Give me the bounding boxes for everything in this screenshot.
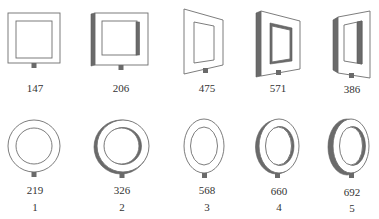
ring-5 [328, 119, 369, 178]
ring-3 [184, 119, 224, 178]
ring-value-2: 326 [114, 184, 131, 196]
column-number-1: 1 [32, 201, 38, 213]
square-value-3: 475 [199, 82, 216, 94]
square-frame-5 [333, 11, 370, 78]
ring-1 [8, 120, 60, 177]
stimulus-figure [0, 0, 379, 219]
square-value-2: 206 [113, 82, 130, 94]
square-value-4: 571 [270, 82, 287, 94]
column-number-4: 4 [276, 201, 282, 213]
column-number-2: 2 [119, 201, 125, 213]
square-value-1: 147 [27, 82, 44, 94]
square-value-5: 386 [344, 83, 361, 95]
column-number-5: 5 [349, 202, 355, 214]
ring-value-5: 692 [344, 186, 361, 198]
ring-2 [94, 120, 149, 178]
square-frame-3 [184, 9, 223, 74]
square-frame-4 [256, 11, 300, 77]
square-frame-2 [91, 13, 148, 70]
square-frame-1 [8, 13, 60, 68]
ring-value-4: 660 [271, 185, 288, 197]
ring-value-3: 568 [199, 184, 216, 196]
column-number-3: 3 [204, 201, 210, 213]
ring-4 [256, 119, 300, 178]
ring-value-1: 219 [27, 184, 44, 196]
